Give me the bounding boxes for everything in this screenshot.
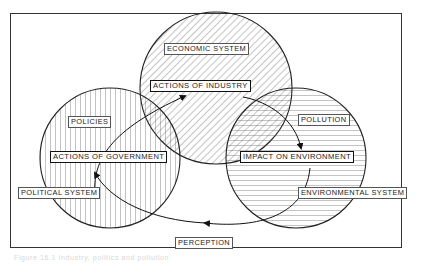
systems-interaction-diagram: ECONOMIC SYSTEM ACTIONS OF INDUSTRY POLI… (0, 0, 426, 267)
actions-of-government-label: ACTIONS OF GOVERNMENT (50, 151, 167, 163)
diagram-graphics (0, 0, 426, 267)
impact-on-environment-label: IMPACT ON ENVIRONMENT (240, 151, 354, 163)
policies-label: POLICIES (68, 116, 111, 128)
political-system-label: POLITICAL SYSTEM (18, 187, 100, 199)
perception-label: PERCEPTION (175, 237, 233, 249)
figure-caption: Figure 16.1 Industry, politics and pollu… (14, 254, 169, 261)
pollution-label: POLLUTION (298, 114, 350, 126)
environmental-system-label: ENVIRONMENTAL SYSTEM (298, 187, 407, 199)
actions-of-industry-label: ACTIONS OF INDUSTRY (150, 80, 251, 92)
economic-system-label: ECONOMIC SYSTEM (164, 43, 249, 55)
